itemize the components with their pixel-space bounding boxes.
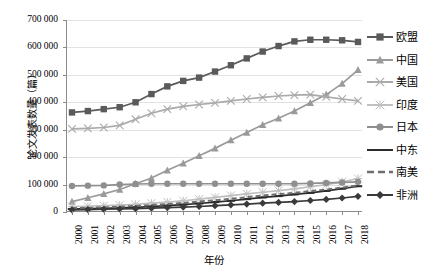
y-axis-tick — [63, 185, 67, 186]
x-axis-tick — [247, 211, 248, 215]
legend-item-2[interactable]: 美国 — [366, 71, 445, 94]
data-point-circle — [323, 180, 329, 186]
y-axis-tick-label: 600 000 — [27, 42, 58, 52]
x-axis-tick — [342, 211, 343, 215]
y-axis-tick — [63, 102, 67, 103]
data-point-circle — [291, 181, 297, 187]
y-axis-tick — [63, 20, 67, 21]
data-point-circle — [376, 124, 383, 131]
data-point-dash — [375, 149, 384, 151]
data-point-square — [196, 74, 202, 80]
series-0 — [69, 37, 361, 116]
legend-item-1[interactable]: 中国 — [366, 49, 445, 72]
legend-symbol-x-icon — [366, 75, 394, 89]
data-point-circle — [148, 181, 154, 187]
legend-symbol-triangle-icon — [366, 53, 394, 67]
data-point-diamond — [354, 193, 361, 200]
data-point-circle — [196, 181, 202, 187]
y-axis-tick-label: 0 — [53, 207, 58, 217]
legend-label: 印度 — [394, 99, 418, 111]
data-point-square — [228, 62, 234, 68]
data-point-circle — [339, 179, 345, 185]
data-point-diamond — [307, 197, 314, 204]
x-axis-tick-label: 2005 — [154, 225, 164, 244]
legend-symbol-circle-icon — [366, 120, 394, 134]
data-point-circle — [180, 181, 186, 187]
data-point-triangle — [307, 99, 314, 106]
x-axis-tick-label: 2007 — [186, 225, 196, 244]
y-axis-tick-label: 700 000 — [27, 15, 58, 25]
data-point-square — [376, 34, 383, 41]
y-axis-tick — [63, 157, 67, 158]
x-axis-tick — [136, 211, 137, 215]
x-axis-tick — [279, 211, 280, 215]
y-axis-tick-label: 500 000 — [27, 70, 58, 80]
legend-symbol-none-icon — [366, 165, 394, 179]
data-point-triangle — [354, 66, 361, 73]
x-axis-tick-label: 2017 — [345, 225, 355, 244]
x-axis-tick-label: 2013 — [282, 225, 292, 244]
x-axis-tick-label: 2016 — [329, 225, 339, 244]
x-axis-tick — [215, 211, 216, 215]
legend-symbol-diamond-icon — [366, 188, 394, 202]
y-axis-tick-label: 200 000 — [27, 152, 58, 162]
x-axis-tick — [120, 211, 121, 215]
data-point-diamond — [259, 200, 266, 207]
x-axis-tick-label: 2003 — [123, 225, 133, 244]
data-series-layer — [67, 20, 363, 212]
x-axis-tick — [310, 211, 311, 215]
series-2 — [68, 91, 362, 133]
data-point-square — [291, 38, 297, 44]
y-axis-tick — [63, 212, 67, 213]
data-point-circle — [307, 180, 313, 186]
legend-symbol-dash-icon — [366, 143, 394, 157]
data-point-square — [355, 39, 361, 45]
data-point-square — [212, 68, 218, 74]
legend-item-3[interactable]: 印度 — [366, 94, 445, 117]
x-axis-tick — [72, 211, 73, 215]
data-point-circle — [244, 181, 250, 187]
data-point-asterisk — [376, 100, 385, 109]
legend-label: 欧盟 — [394, 31, 418, 43]
legend-label: 南美 — [394, 166, 418, 178]
legend-label: 中东 — [394, 144, 418, 156]
legend-symbol-asterisk-icon — [366, 98, 394, 112]
x-axis-tick-label: 2000 — [75, 225, 85, 244]
series-4 — [69, 179, 361, 190]
legend-label: 美国 — [394, 76, 418, 88]
x-axis-tick-label: 2011 — [250, 225, 260, 244]
legend-item-0[interactable]: 欧盟 — [366, 26, 445, 49]
data-point-diamond — [376, 191, 384, 199]
data-point-circle — [85, 182, 91, 188]
data-point-square — [132, 99, 138, 105]
x-axis-tick — [104, 211, 105, 215]
x-axis-tick-label: 2006 — [170, 225, 180, 244]
data-point-diamond — [275, 199, 282, 206]
legend-item-7[interactable]: 非洲 — [366, 184, 445, 207]
data-point-x — [132, 115, 140, 123]
y-axis-tick-labels: 700 000600 000500 000400 000300 000200 0… — [0, 0, 62, 230]
y-axis-tick-label: 400 000 — [27, 97, 58, 107]
x-axis-tick-labels: 2000200120022003200420052006200720082009… — [66, 216, 362, 250]
data-point-square — [339, 37, 345, 43]
data-point-circle — [275, 181, 281, 187]
x-axis-tick-label: 2002 — [107, 225, 117, 244]
data-point-square — [101, 106, 107, 112]
data-point-square — [259, 48, 265, 54]
data-point-diamond — [227, 201, 234, 208]
x-axis-tick — [151, 211, 152, 215]
x-axis-tick — [183, 211, 184, 215]
x-axis-tick — [231, 211, 232, 215]
x-axis-tick — [294, 211, 295, 215]
data-point-circle — [69, 183, 75, 189]
legend-item-6[interactable]: 南美 — [366, 161, 445, 184]
legend-item-4[interactable]: 日本 — [366, 116, 445, 139]
legend-item-5[interactable]: 中东 — [366, 139, 445, 162]
x-axis-tick-label: 2012 — [266, 225, 276, 244]
legend-label: 中国 — [394, 54, 418, 66]
legend: 欧盟中国美国印度日本中东南美非洲 — [366, 26, 445, 206]
legend-label: 非洲 — [394, 189, 418, 201]
x-axis-tick-label: 2009 — [218, 225, 228, 244]
data-point-circle — [212, 181, 218, 187]
data-point-circle — [228, 181, 234, 187]
